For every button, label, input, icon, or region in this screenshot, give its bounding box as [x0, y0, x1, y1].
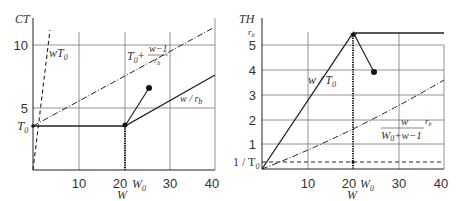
right-ytick-rb: rb [248, 27, 255, 38]
left-chart: 10 20 30 40 5 10 T0 W0 W CT wT0 T0+ w−1 … [14, 12, 220, 201]
left-xtick-W0: W0 [132, 177, 146, 193]
svg-text:W0+w−1: W0+w−1 [381, 129, 422, 143]
left-worst-segment [125, 88, 149, 126]
left-ylabel: CT [15, 12, 31, 26]
right-label-ratio: w W0+w−1 rb [381, 115, 432, 143]
right-xlabel: W [347, 188, 358, 201]
left-w0-point [123, 123, 128, 128]
left-worst-point [146, 85, 152, 91]
right-ytick-5: 5 [249, 38, 256, 53]
right-invT0-point [352, 161, 355, 164]
right-xtick-W0: W0 [360, 177, 374, 193]
svg-text:w: w [401, 115, 409, 127]
left-label-wrb: w / rb [180, 93, 202, 106]
left-xtick-10: 10 [72, 176, 86, 191]
left-line-wT0 [33, 30, 50, 170]
right-ytick-1: 1 [249, 137, 256, 152]
right-xtick-10: 10 [301, 176, 315, 191]
right-xtick-40: 40 [434, 176, 448, 191]
left-xtick-30: 30 [163, 176, 177, 191]
right-xtick-30: 30 [392, 176, 406, 191]
left-ytick-T0: T0 [17, 118, 28, 135]
figure: 10 20 30 40 5 10 T0 W0 W CT wT0 T0+ w−1 … [0, 0, 459, 201]
right-ylabel: TH [239, 12, 256, 26]
right-label-wT0: w / T0 [308, 73, 336, 89]
svg-text:T0+: T0+ [127, 49, 145, 65]
left-ytick-10: 10 [14, 38, 28, 53]
right-ytick-invT0: 1 / T0 [233, 155, 259, 171]
left-xtick-40: 40 [205, 176, 219, 191]
left-ytick-5: 5 [21, 101, 28, 116]
left-label-T0-plus: T0+ w−1 rb [127, 43, 168, 66]
right-ytick-2: 2 [249, 113, 256, 128]
svg-text:w−1: w−1 [149, 43, 167, 54]
right-chart: ★ 10 20 30 40 5 4 3 2 1 1 / T0 rb TH W0 … [233, 12, 448, 201]
left-t0-point [31, 124, 35, 128]
right-ytick-4: 4 [249, 63, 256, 78]
left-label-wT0: wT0 [49, 46, 68, 62]
svg-text:rb: rb [425, 116, 432, 127]
right-ytick-3: 3 [249, 88, 256, 103]
left-line-T0-plus [33, 28, 213, 126]
left-xlabel: W [117, 188, 128, 201]
right-peak-star-icon: ★ [349, 29, 358, 40]
right-worst-point [371, 69, 377, 75]
